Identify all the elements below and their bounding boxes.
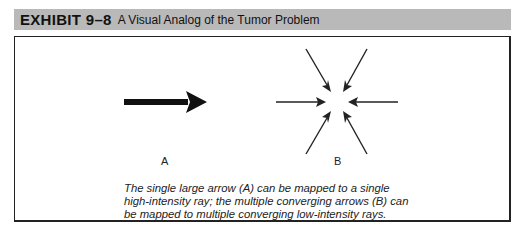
caption-line: high-intensity ray; the multiple converg… bbox=[124, 195, 424, 208]
caption-line: The single large arrow (A) can be mapped… bbox=[124, 182, 424, 195]
single-large-arrow-icon bbox=[124, 91, 207, 113]
caption-line: be mapped to multiple converging low-int… bbox=[124, 208, 424, 221]
converging-arrows-icon bbox=[276, 49, 398, 154]
figure-caption: The single large arrow (A) can be mapped… bbox=[124, 182, 424, 221]
label-a: A bbox=[161, 155, 168, 167]
label-b: B bbox=[334, 155, 341, 167]
